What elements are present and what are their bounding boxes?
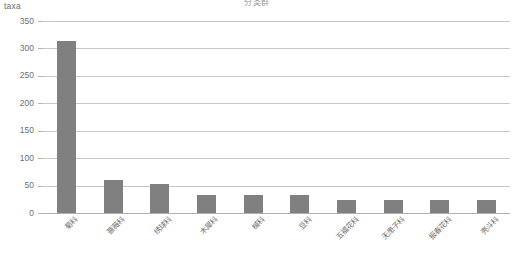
- bar: [150, 184, 169, 213]
- x-tick-label: 蔷薇科: [104, 214, 126, 236]
- y-tick-label: 100: [0, 154, 34, 163]
- x-tick-label: 菊科: [62, 214, 79, 231]
- x-tick-label: 豆科: [295, 214, 312, 231]
- y-axis-label: taxa: [4, 1, 21, 11]
- x-tick-label: 报春花科: [426, 214, 453, 241]
- y-tick-label: 200: [0, 99, 34, 108]
- x-tick-label: 五福花科: [332, 214, 359, 241]
- x-tick-label: 无患子科: [379, 214, 406, 241]
- bar: [384, 200, 403, 213]
- bar: [477, 200, 496, 213]
- bar: [57, 41, 76, 213]
- bar-chart: 分类群 taxa 050100150200250300350 菊科蔷薇科绣球科木…: [0, 0, 514, 257]
- bars-layer: [43, 21, 510, 213]
- chart-title: 分类群: [0, 0, 514, 7]
- bar: [430, 200, 449, 213]
- y-tick-label: 50: [0, 181, 34, 190]
- y-tick-label: 150: [0, 126, 34, 135]
- x-tick-label: 槭科: [249, 214, 266, 231]
- bar: [197, 195, 216, 213]
- x-tick-label: 绣球科: [150, 214, 172, 236]
- x-tick-label: 木犀科: [197, 214, 219, 236]
- x-axis-labels: 菊科蔷薇科绣球科木犀科槭科豆科五福花科无患子科报春花科壳斗科: [43, 214, 510, 257]
- y-tick-label: 0: [0, 209, 34, 218]
- bar: [244, 195, 263, 213]
- y-tick-label: 300: [0, 44, 34, 53]
- bar: [290, 195, 309, 213]
- y-tick-label: 250: [0, 71, 34, 80]
- bar: [337, 200, 356, 213]
- bar: [104, 180, 123, 213]
- y-tick-label: 350: [0, 17, 34, 26]
- x-tick-label: 壳斗科: [477, 214, 499, 236]
